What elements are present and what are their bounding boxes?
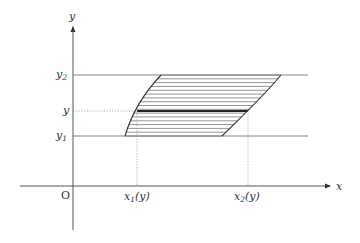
hatch-region	[125, 75, 281, 136]
x-axis-label: x	[336, 180, 343, 193]
y2-label: y2	[55, 68, 67, 82]
x2-label: x2(y)	[234, 190, 260, 204]
y-axis-label: y	[68, 10, 76, 23]
y-label: y	[62, 104, 70, 117]
diagram-canvas: x y O y2 y y1 x1(y) x2(y)	[0, 0, 360, 243]
y1-label: y1	[55, 129, 67, 143]
origin-label: O	[61, 189, 70, 202]
x1-label: x1(y)	[124, 190, 150, 204]
